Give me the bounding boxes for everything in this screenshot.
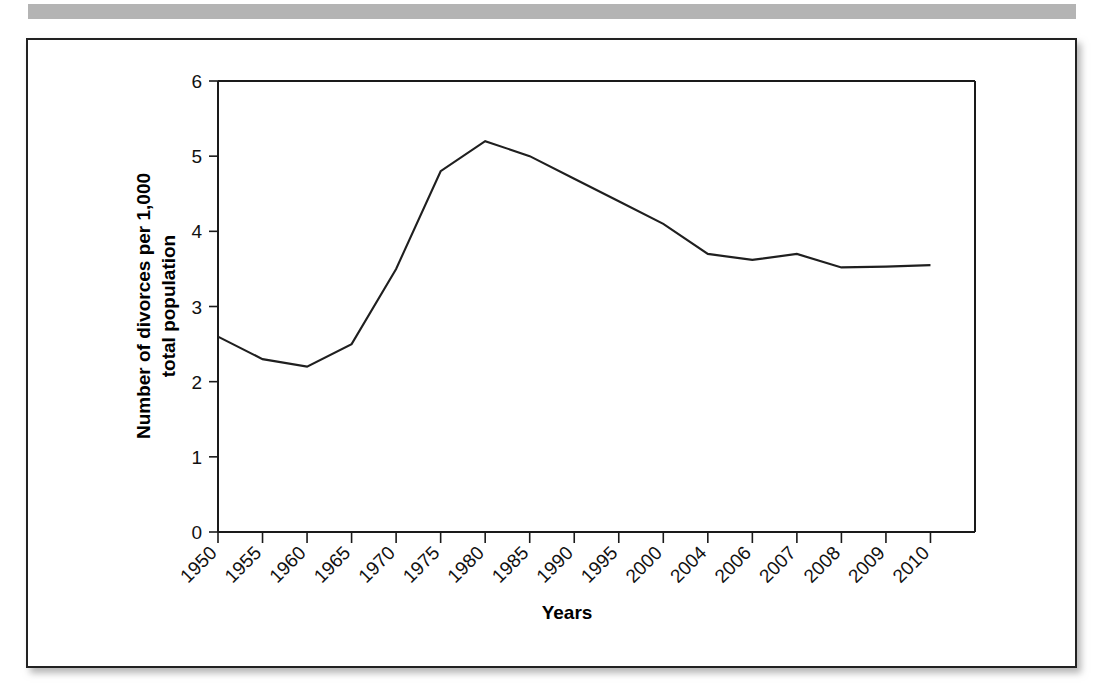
x-tick-label: 1980	[443, 542, 488, 587]
line-chart: 0123456 19501955196019651970197519801985…	[0, 0, 1103, 698]
y-tick-label: 1	[191, 447, 202, 468]
y-axis: 0123456	[191, 71, 975, 543]
x-axis-title: Years	[542, 602, 593, 623]
x-tick-label: 2000	[621, 542, 666, 587]
y-tick-label: 3	[191, 297, 202, 318]
x-tick-label: 2004	[666, 542, 711, 587]
x-tick-label: 1950	[176, 542, 221, 587]
y-axis-title-line-1: Number of divorces per 1,000	[133, 173, 154, 439]
chart-page: 0123456 19501955196019651970197519801985…	[0, 0, 1103, 698]
x-axis: 1950195519601965197019751980198519901995…	[176, 532, 975, 587]
x-tick-label: 2007	[755, 542, 800, 587]
x-tick-label: 2009	[844, 542, 889, 587]
x-tick-label: 1970	[354, 542, 399, 587]
x-tick-label: 1995	[577, 542, 622, 587]
y-tick-label: 2	[191, 372, 202, 393]
y-axis-title-line-2: total population	[158, 235, 179, 377]
x-tick-label: 1960	[265, 542, 310, 587]
series-polyline	[218, 141, 930, 367]
x-tick-label: 2006	[710, 542, 755, 587]
x-tick-label: 1985	[488, 542, 533, 587]
x-tick-label: 1975	[399, 542, 444, 587]
x-tick-label: 2010	[889, 542, 934, 587]
x-tick-label: 1955	[221, 542, 266, 587]
y-tick-label: 5	[191, 146, 202, 167]
x-tick-label: 1965	[310, 542, 355, 587]
data-series-divorce-rate	[218, 141, 930, 367]
y-tick-label: 6	[191, 71, 202, 92]
y-tick-label: 4	[191, 221, 202, 242]
x-tick-label: 2008	[799, 542, 844, 587]
y-tick-label: 0	[191, 522, 202, 543]
x-tick-label: 1990	[532, 542, 577, 587]
